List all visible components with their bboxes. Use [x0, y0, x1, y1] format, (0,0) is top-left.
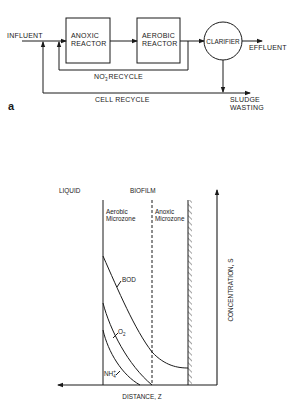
substratum-hatching	[188, 200, 192, 385]
bod-leader	[117, 281, 121, 287]
o2-curve-label: O2	[118, 328, 126, 337]
anoxic-zone-label-line2: Microzone	[155, 215, 185, 222]
bod-curve-label: BOD	[122, 276, 136, 283]
effluent-label: EFFLUENT	[249, 44, 287, 51]
nh4-leader	[116, 371, 120, 375]
distance-axis-label: DISTANCE, Z	[122, 393, 161, 400]
cell-recycle-line	[43, 42, 223, 93]
aerobic-reactor: AEROBIC REACTOR	[137, 18, 180, 63]
liquid-label: LIQUID	[59, 187, 81, 195]
anoxic-reactor-label-line2: REACTOR	[71, 40, 107, 47]
sludge-wasting-label-line2: WASTING	[230, 104, 264, 111]
nitrate-recycle-label: NO3- RECYCLE	[94, 72, 143, 82]
sludge-wasting-label-line1: SLUDGE	[230, 96, 260, 103]
aerobic-reactor-label-line2: REACTOR	[142, 40, 178, 47]
aerobic-zone-label-line1: Aerobic	[106, 208, 128, 215]
clarifier: CLARIFIER	[204, 22, 242, 60]
nh4-curve-label: NH4+	[104, 369, 116, 379]
anoxic-reactor-label-line1: ANOXIC	[71, 32, 99, 39]
panel-a-flow-diagram: INFLUENT ANOXIC REACTOR AEROBIC REACTOR …	[7, 18, 287, 112]
cell-recycle-label: CELL RECYCLE	[95, 96, 150, 103]
biofilm-label: BIOFILM	[130, 187, 156, 194]
influent-label: INFLUENT	[7, 32, 43, 39]
clarifier-label: CLARIFIER	[206, 38, 240, 45]
anoxic-reactor: ANOXIC REACTOR	[66, 18, 110, 63]
panel-a-label: a	[8, 100, 15, 112]
panel-b-biofilm-profile: LIQUID BIOFILM Aerobic Microzone Anoxic …	[58, 187, 234, 400]
diagram-canvas: INFLUENT ANOXIC REACTOR AEROBIC REACTOR …	[0, 0, 291, 415]
aerobic-zone-label-line2: Microzone	[106, 215, 136, 222]
anoxic-zone-label-line1: Anoxic	[155, 208, 175, 215]
bod-curve	[103, 256, 188, 368]
aerobic-reactor-label-line1: AEROBIC	[142, 32, 175, 39]
concentration-axis-label: CONCENTRATION, S	[227, 258, 234, 321]
